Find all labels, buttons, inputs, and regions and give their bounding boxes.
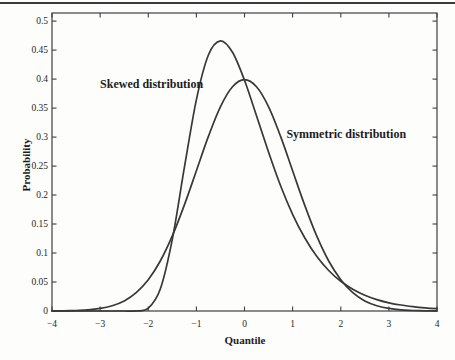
x-axis-label: Quantile [225, 334, 266, 346]
x-tick-label: 2 [338, 319, 343, 329]
y-tick-label: 0 [43, 306, 48, 316]
y-tick-label: 0.25 [31, 161, 48, 171]
y-tick-label: 0.15 [31, 219, 48, 229]
curve-annotations: Skewed distributionSymmetric distributio… [100, 77, 406, 141]
axis-tick-labels: −4−3−2−10123400.050.10.150.20.250.30.350… [31, 16, 439, 329]
annotation-symmetric-distribution: Symmetric distribution [286, 127, 406, 141]
annotation-skewed-distribution: Skewed distribution [100, 77, 203, 91]
y-axis-label: Probability [20, 138, 32, 191]
y-tick-label: 0.2 [36, 190, 48, 200]
y-tick-label: 0.3 [36, 132, 48, 142]
curve-symmetric-distribution [52, 80, 437, 311]
x-tick-label: −3 [95, 319, 105, 329]
y-tick-label: 0.4 [36, 74, 48, 84]
x-tick-label: −4 [47, 319, 57, 329]
y-tick-label: 0.1 [36, 248, 48, 258]
axis-ticks [52, 13, 437, 311]
x-tick-label: −1 [191, 319, 201, 329]
figure-page: −4−3−2−10123400.050.10.150.20.250.30.350… [0, 0, 455, 360]
y-tick-label: 0.05 [31, 277, 48, 287]
x-tick-label: 1 [290, 319, 295, 329]
y-tick-label: 0.45 [31, 45, 48, 55]
x-tick-label: 0 [242, 319, 247, 329]
x-tick-label: 4 [435, 319, 440, 329]
plot-border [52, 13, 437, 311]
distribution-chart: −4−3−2−10123400.050.10.150.20.250.30.350… [0, 0, 455, 360]
x-tick-label: 3 [387, 319, 392, 329]
y-tick-label: 0.5 [36, 16, 48, 26]
y-tick-label: 0.35 [31, 103, 48, 113]
x-tick-label: −2 [143, 319, 153, 329]
